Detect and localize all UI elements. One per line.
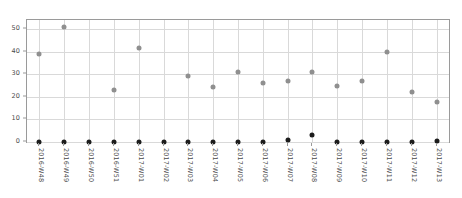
gridline-vertical: [312, 20, 313, 142]
data-point: [260, 81, 265, 86]
x-axis-tick-label: 2017-W06: [261, 148, 269, 182]
x-axis-tick-label: 2017-W08: [310, 148, 318, 182]
data-point: [310, 133, 315, 138]
data-point: [236, 69, 241, 74]
x-axis-tick-label: 2016-W48: [37, 148, 45, 182]
gridline-vertical: [238, 20, 239, 142]
x-axis-tick-mark: [237, 143, 238, 146]
x-axis-tick-label: 2016-W49: [62, 148, 70, 182]
plot-area: [26, 19, 450, 143]
data-point: [285, 137, 290, 142]
x-axis-tick-mark: [262, 143, 263, 146]
x-axis-tick-mark: [361, 143, 362, 146]
y-axis-tick-label: 20: [12, 92, 20, 100]
y-axis: 01020304050: [0, 19, 26, 143]
x-axis-tick-mark: [336, 143, 337, 146]
gridline-vertical: [412, 20, 413, 142]
x-axis-tick-mark: [212, 143, 213, 146]
x-axis-tick-label: 2016-W51: [112, 148, 120, 182]
x-axis-tick-mark: [436, 143, 437, 146]
data-point: [384, 49, 389, 54]
data-point: [434, 100, 439, 105]
gridline-vertical: [437, 20, 438, 142]
x-axis-tick-mark: [287, 143, 288, 146]
x-axis-tick-mark: [163, 143, 164, 146]
data-point: [186, 74, 191, 79]
x-axis-tick-mark: [187, 143, 188, 146]
x-axis-tick-label: 2017-W13: [435, 148, 443, 182]
x-axis-tick-mark: [113, 143, 114, 146]
gridline-vertical: [114, 20, 115, 142]
data-point: [335, 83, 340, 88]
scatter-chart-figure: 01020304050 2016-W482016-W492016-W502016…: [0, 0, 462, 198]
data-point: [111, 88, 116, 93]
gridline-vertical: [39, 20, 40, 142]
data-point: [211, 84, 216, 89]
x-axis-tick-mark: [311, 143, 312, 146]
x-axis-tick-mark: [38, 143, 39, 146]
x-axis-tick-label: 2017-W07: [286, 148, 294, 182]
x-axis-tick-label: 2017-W05: [236, 148, 244, 182]
x-axis-tick-label: 2017-W02: [162, 148, 170, 182]
x-axis-tick-label: 2017-W10: [360, 148, 368, 182]
x-axis-tick-label: 2017-W12: [410, 148, 418, 182]
data-point: [310, 69, 315, 74]
x-axis-tick-label: 2017-W04: [211, 148, 219, 182]
y-axis-tick-label: 30: [12, 69, 20, 77]
data-point: [62, 24, 67, 29]
data-point: [37, 51, 42, 56]
x-axis: 2016-W482016-W492016-W502016-W512017-W01…: [26, 143, 450, 198]
y-axis-tick-label: 50: [12, 24, 20, 32]
x-axis-tick-label: 2017-W03: [186, 148, 194, 182]
data-point: [360, 79, 365, 84]
data-point: [409, 90, 414, 95]
x-axis-tick-mark: [63, 143, 64, 146]
x-axis-tick-mark: [138, 143, 139, 146]
gridline-vertical: [139, 20, 140, 142]
gridline-vertical: [188, 20, 189, 142]
x-axis-tick-label: 2017-W09: [335, 148, 343, 182]
y-axis-tick-label: 40: [12, 47, 20, 55]
gridline-vertical: [64, 20, 65, 142]
data-point: [285, 79, 290, 84]
y-axis-tick-label: 0: [16, 137, 20, 145]
gridline-vertical: [387, 20, 388, 142]
data-point: [136, 46, 141, 51]
x-axis-tick-label: 2016-W50: [87, 148, 95, 182]
gridline-vertical: [213, 20, 214, 142]
x-axis-tick-label: 2017-W11: [385, 148, 393, 182]
gridline-vertical: [337, 20, 338, 142]
gridline-vertical: [89, 20, 90, 142]
x-axis-tick-label: 2017-W01: [137, 148, 145, 182]
x-axis-tick-mark: [386, 143, 387, 146]
gridline-vertical: [164, 20, 165, 142]
x-axis-tick-mark: [88, 143, 89, 146]
y-axis-tick-label: 10: [12, 114, 20, 122]
x-axis-tick-mark: [411, 143, 412, 146]
